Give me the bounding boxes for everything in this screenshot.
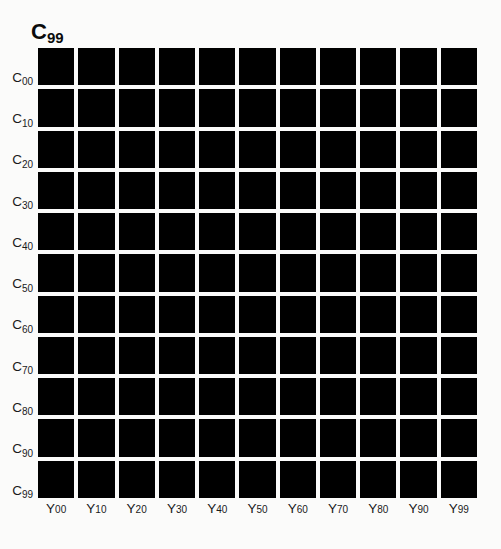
patch-cell <box>159 172 195 209</box>
patch-cell <box>400 48 436 85</box>
chart-title: C99 <box>31 21 64 43</box>
patch-cell <box>199 254 235 291</box>
patch-cell <box>280 213 316 250</box>
column-label-subscript: 70 <box>337 505 348 515</box>
patch-cell <box>360 378 396 415</box>
patch-cell <box>280 337 316 374</box>
patch-cell <box>239 378 275 415</box>
row-label-subscript: 70 <box>22 366 33 376</box>
patch-cell <box>199 296 235 333</box>
patch-cell <box>320 131 356 168</box>
patch-cell <box>441 378 477 415</box>
patch-cell <box>239 461 275 498</box>
row-label-base: C <box>12 236 22 250</box>
patch-cell <box>119 461 155 498</box>
patch-cell <box>400 461 436 498</box>
patch-cell <box>78 296 114 333</box>
patch-cell <box>320 172 356 209</box>
patch-cell <box>199 461 235 498</box>
patch-cell <box>280 296 316 333</box>
patch-cell <box>78 48 114 85</box>
column-axis-label: Y10 <box>78 500 114 524</box>
chart-title-subscript: 99 <box>47 29 64 46</box>
column-label-base: Y <box>86 502 95 516</box>
patch-cell <box>159 131 195 168</box>
patch-cell <box>320 213 356 250</box>
row-axis-label: C40 <box>0 213 36 250</box>
patch-cell <box>441 461 477 498</box>
patch-cell <box>78 89 114 126</box>
patch-cell <box>78 131 114 168</box>
column-axis-label: Y70 <box>320 500 356 524</box>
patch-cell <box>360 213 396 250</box>
patch-cell <box>441 296 477 333</box>
patch-cell <box>320 254 356 291</box>
patch-cell <box>441 337 477 374</box>
row-label-subscript: 40 <box>22 242 33 252</box>
patch-cell <box>159 296 195 333</box>
row-label-base: C <box>12 153 22 167</box>
column-label-base: Y <box>247 502 256 516</box>
patch-cell <box>119 131 155 168</box>
row-label-subscript: 60 <box>22 325 33 335</box>
row-label-subscript: 99 <box>22 490 33 500</box>
patch-cell <box>159 48 195 85</box>
column-axis-label: Y30 <box>159 500 195 524</box>
patch-cell <box>38 131 74 168</box>
column-label-subscript: 00 <box>55 505 66 515</box>
row-label-base: C <box>12 277 22 291</box>
row-label-base: C <box>12 401 22 415</box>
patch-cell <box>320 296 356 333</box>
row-label-base: C <box>12 484 22 498</box>
patch-cell <box>119 48 155 85</box>
patch-cell <box>400 131 436 168</box>
patch-cell <box>38 172 74 209</box>
patch-cell <box>360 337 396 374</box>
column-axis-label: Y00 <box>38 500 74 524</box>
column-axis-label: Y40 <box>199 500 235 524</box>
patch-cell <box>360 419 396 456</box>
column-label-base: Y <box>288 502 297 516</box>
patch-cell <box>78 337 114 374</box>
patch-cell <box>78 213 114 250</box>
row-label-subscript: 20 <box>22 160 33 170</box>
patch-grid <box>38 48 477 498</box>
column-label-subscript: 30 <box>176 505 187 515</box>
column-label-subscript: 90 <box>418 505 429 515</box>
patch-cell <box>159 337 195 374</box>
row-label-base: C <box>12 71 22 85</box>
patch-cell <box>119 337 155 374</box>
patch-cell <box>360 254 396 291</box>
row-axis-label: C50 <box>0 254 36 291</box>
patch-cell <box>199 213 235 250</box>
patch-cell <box>280 378 316 415</box>
patch-cell <box>360 89 396 126</box>
row-label-subscript: 10 <box>22 119 33 129</box>
patch-cell <box>441 89 477 126</box>
patch-cell <box>119 296 155 333</box>
patch-cell <box>119 378 155 415</box>
patch-cell <box>159 378 195 415</box>
column-axis-label: Y90 <box>400 500 436 524</box>
patch-cell <box>239 419 275 456</box>
patch-cell <box>360 172 396 209</box>
patch-cell <box>360 461 396 498</box>
row-label-base: C <box>12 112 22 126</box>
patch-cell <box>78 254 114 291</box>
column-label-subscript: 80 <box>377 505 388 515</box>
patch-cell <box>78 378 114 415</box>
patch-cell <box>38 213 74 250</box>
patch-cell <box>239 48 275 85</box>
row-label-base: C <box>12 318 22 332</box>
column-axis-labels: Y00Y10Y20Y30Y40Y50Y60Y70Y80Y90Y99 <box>38 500 477 524</box>
column-label-base: Y <box>46 502 55 516</box>
patch-cell <box>400 254 436 291</box>
patch-cell <box>239 337 275 374</box>
column-axis-label: Y20 <box>119 500 155 524</box>
row-label-subscript: 50 <box>22 284 33 294</box>
column-axis-label: Y60 <box>280 500 316 524</box>
patch-cell <box>199 172 235 209</box>
patch-cell <box>441 131 477 168</box>
patch-cell <box>280 172 316 209</box>
row-axis-label: C00 <box>0 48 36 85</box>
